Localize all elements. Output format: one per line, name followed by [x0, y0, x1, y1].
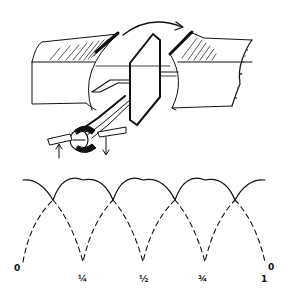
label-half: ½: [139, 274, 148, 284]
right-pole-piece: [170, 32, 252, 110]
generator-figure: 0 ¼ ½ ¾ 1 0: [0, 0, 293, 301]
solid-waveform: [23, 178, 265, 200]
x-axis-labels: 0 ¼ ½ ¾ 1 0: [14, 262, 274, 284]
brush-left: [48, 134, 72, 145]
current-out-arrow-icon: [103, 137, 109, 155]
label-one: 1: [261, 274, 267, 284]
dashed-waveform: [23, 200, 265, 262]
brush-right: [98, 127, 126, 137]
armature-loop: [78, 34, 178, 138]
generator-illustration: [32, 22, 252, 158]
commutator: [70, 126, 96, 153]
label-end-zero: 0: [268, 262, 274, 272]
waveform-chart: [23, 178, 265, 262]
label-start-zero: 0: [14, 263, 20, 273]
label-three-quarter: ¾: [198, 274, 207, 284]
left-pole-piece: [32, 33, 118, 110]
current-in-arrow-icon: [56, 144, 62, 158]
label-quarter: ¼: [78, 274, 87, 284]
